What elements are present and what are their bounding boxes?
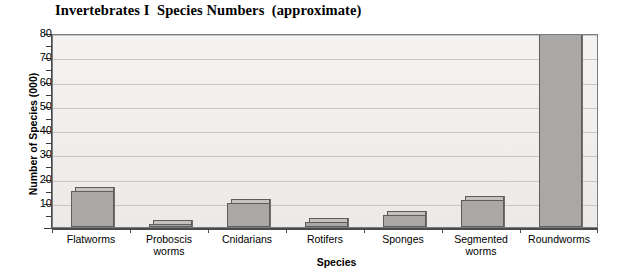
bar[interactable] [305, 222, 348, 227]
category-label-line: Sponges [364, 233, 442, 245]
category-label-line: Segmented [442, 233, 520, 245]
bar[interactable] [149, 224, 192, 227]
bar[interactable] [539, 34, 582, 227]
y-tick-label: 50 [26, 100, 52, 112]
category-label-line: Flatworms [52, 233, 130, 245]
bar[interactable] [461, 200, 504, 227]
category-label-line: Proboscis [130, 233, 208, 245]
bar[interactable] [227, 203, 270, 227]
bar-slot [227, 35, 270, 227]
plot-area [52, 34, 598, 228]
x-axis-line [52, 228, 598, 230]
category-label-line: Roundworms [520, 233, 598, 245]
category-label: Segmentedworms [442, 233, 520, 257]
category-label: Cnidarians [208, 233, 286, 245]
bar-slot [71, 35, 114, 227]
bar[interactable] [383, 215, 426, 227]
y-tick-label: 10 [26, 197, 52, 209]
bar[interactable] [71, 191, 114, 227]
y-tick-label: 20 [26, 173, 52, 185]
chart-title: Invertebrates I Species Numbers (approxi… [55, 2, 361, 19]
bar-slot [461, 35, 504, 227]
y-tick-label: 70 [26, 51, 52, 63]
bar-slot [305, 35, 348, 227]
x-axis-title: Species [26, 256, 621, 268]
category-label: Sponges [364, 233, 442, 245]
y-axis-ticks: 1020304050607080 [0, 34, 52, 228]
category-label-line: Cnidarians [208, 233, 286, 245]
bar-slot [149, 35, 192, 227]
y-tick-label: 40 [26, 124, 52, 136]
category-label-line: Rotifers [286, 233, 364, 245]
category-label: Flatworms [52, 233, 130, 245]
bar-chart: Invertebrates I Species Numbers (approxi… [0, 0, 621, 276]
category-label: Roundworms [520, 233, 598, 245]
bar-slot [383, 35, 426, 227]
bar-slot [539, 35, 582, 227]
y-tick-label: 60 [26, 76, 52, 88]
y-tick-label: 80 [26, 27, 52, 39]
y-tick-label: 30 [26, 148, 52, 160]
category-label: Proboscisworms [130, 233, 208, 257]
category-label: Rotifers [286, 233, 364, 245]
